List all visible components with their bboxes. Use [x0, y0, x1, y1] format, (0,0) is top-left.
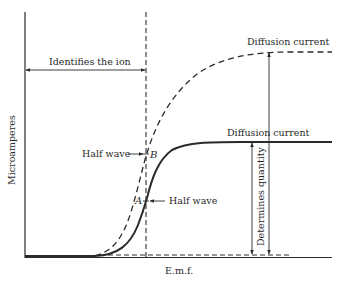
determines-quantity-label: Determines quantity [255, 146, 266, 246]
identifies-ion-label: Identifies the ion [49, 56, 131, 67]
x-axis-label: E.m.f. [165, 265, 193, 276]
dashed-wave-curve [25, 52, 332, 256]
point-b-label: B [149, 149, 157, 160]
diffusion-current-lower-label: Diffusion current [227, 127, 310, 138]
half-wave-b-label: Half wave [82, 148, 131, 159]
point-a-label: A [134, 195, 142, 206]
diffusion-current-upper-label: Diffusion current [247, 36, 330, 47]
y-axis-label: Microamperes [6, 115, 17, 185]
half-wave-a-label: Half wave [169, 195, 218, 206]
polarogram-diagram: Identifies the ion Diffusion current Dif… [0, 0, 344, 281]
